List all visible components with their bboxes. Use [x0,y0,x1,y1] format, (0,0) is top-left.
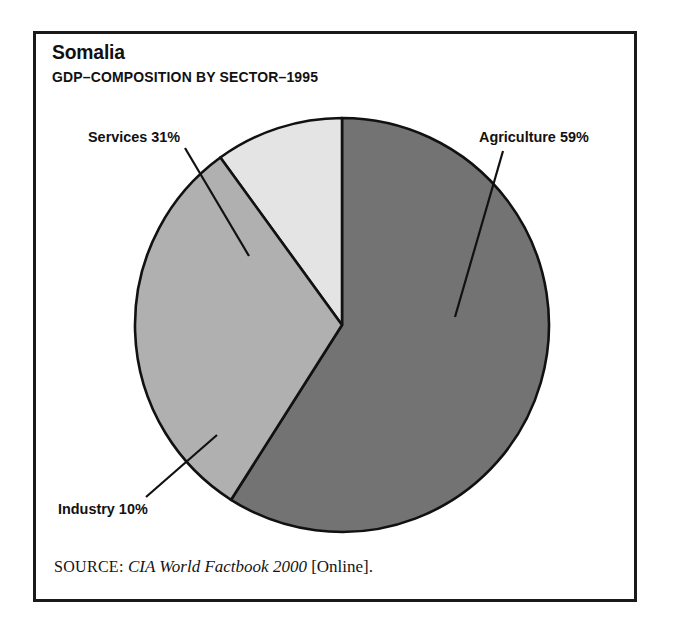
source-work-title: CIA World Factbook 2000 [128,557,307,576]
figure-canvas: Somalia GDP–COMPOSITION BY SECTOR–1995 S… [0,0,678,630]
pie-label-agriculture: Agriculture 59% [479,128,589,146]
pie-label-industry: Industry 10% [58,500,148,518]
source-medium: [Online]. [311,557,373,576]
source-label: SOURCE: [54,558,124,575]
title-block: Somalia GDP–COMPOSITION BY SECTOR–1995 [52,41,472,86]
page-title: Somalia [52,41,438,63]
chart-subtitle: GDP–COMPOSITION BY SECTOR–1995 [52,68,430,86]
pie-label-services: Services 31% [88,128,180,146]
source-citation: SOURCE: CIA World Factbook 2000 [Online]… [54,557,373,577]
